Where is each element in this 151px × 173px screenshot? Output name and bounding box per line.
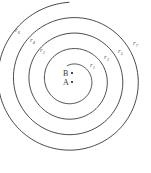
label-r3: r3	[104, 53, 110, 62]
point-label-a: A	[63, 78, 69, 87]
point-label-b: B	[63, 69, 68, 78]
point-b	[71, 72, 73, 74]
label-r7: r7	[133, 39, 139, 48]
label-r5: r5	[118, 47, 124, 56]
center-points: BA	[63, 69, 73, 87]
spiral-diagram: r1r2r3r4r5r6r7 BA	[0, 0, 151, 173]
point-a	[71, 81, 73, 83]
label-r2: r2	[40, 46, 46, 55]
spiral-curve	[0, 2, 138, 150]
label-r4: r4	[30, 36, 36, 45]
label-r1: r1	[90, 61, 95, 70]
